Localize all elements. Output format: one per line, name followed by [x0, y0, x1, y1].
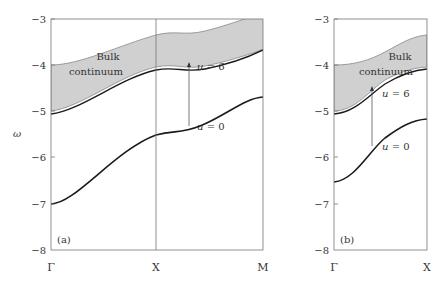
- xtick-x: X: [152, 261, 160, 274]
- bulk-label-line2: continuum: [359, 66, 414, 77]
- u0-mode-curve: [334, 119, 427, 182]
- panel-a: −3 −4 −5 −6 −7 −8 Γ X M Bulk continuum u…: [31, 10, 270, 274]
- y-axis-label: ω: [13, 128, 21, 139]
- xtick-gamma: Γ: [330, 261, 338, 274]
- ytick-label: −5: [314, 106, 329, 117]
- panel-b-label: (b): [340, 234, 354, 245]
- panel-a-label: (a): [57, 234, 71, 245]
- panel-b-yticks: [334, 19, 338, 204]
- ytick-label: −6: [31, 152, 46, 163]
- ytick-label: −8: [314, 245, 329, 256]
- ytick-label: −3: [31, 14, 46, 25]
- u0-mode-curve: [51, 97, 263, 204]
- panel-a-yticks: [51, 19, 55, 204]
- panel-b: −3 −4 −5 −6 −7 −8 Γ X Bulk continuum u =…: [314, 14, 431, 274]
- ytick-label: −3: [314, 14, 329, 25]
- bulk-label-line1: Bulk: [388, 51, 412, 62]
- bulk-label-line2: continuum: [69, 66, 124, 77]
- ytick-label: −6: [314, 152, 329, 163]
- xtick-x: X: [423, 261, 431, 274]
- ytick-label: −8: [31, 245, 46, 256]
- xtick-m: M: [257, 261, 268, 274]
- figure: −3 −4 −5 −6 −7 −8 Γ X M Bulk continuum u…: [0, 0, 440, 281]
- ytick-label: −4: [314, 60, 329, 71]
- u6-label: u = 6: [382, 88, 410, 99]
- u6-label: u = 6: [197, 61, 225, 72]
- ytick-label: −4: [31, 60, 46, 71]
- u0-label: u = 0: [382, 141, 410, 152]
- ytick-label: −7: [314, 199, 329, 210]
- ytick-label: −5: [31, 106, 46, 117]
- xtick-gamma: Γ: [47, 261, 55, 274]
- ytick-label: −7: [31, 199, 46, 210]
- u0-label: u = 0: [197, 121, 225, 132]
- bulk-label-line1: Bulk: [96, 51, 120, 62]
